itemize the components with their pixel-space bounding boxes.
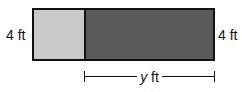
light-rectangle	[32, 8, 85, 61]
dimension-variable: y	[140, 69, 147, 85]
dark-rectangle	[84, 8, 215, 61]
dimension-unit: ft	[151, 69, 159, 85]
width-dimension: y ft	[84, 68, 215, 84]
left-height-label: 4 ft	[6, 28, 25, 42]
right-height-label: 4 ft	[218, 28, 237, 42]
dimension-label: y ft	[84, 69, 215, 85]
